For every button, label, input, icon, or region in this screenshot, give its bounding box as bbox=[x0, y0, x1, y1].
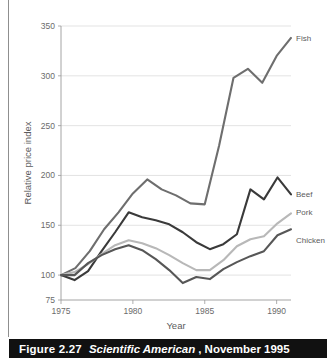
y-tick-label: 150 bbox=[41, 220, 55, 230]
x-tick-label: 1990 bbox=[267, 306, 286, 316]
y-axis-ticks: 75100150200250300350 bbox=[41, 21, 61, 305]
y-tick-label: 200 bbox=[41, 170, 55, 180]
y-tick-label: 100 bbox=[41, 270, 55, 280]
series-label-chicken: Chicken bbox=[296, 236, 325, 245]
series-line-beef bbox=[61, 177, 291, 280]
data-series-group bbox=[61, 38, 291, 283]
caption-date: , November 1995 bbox=[198, 343, 289, 355]
series-label-beef: Beef bbox=[296, 190, 313, 199]
x-tick-label: 1985 bbox=[195, 306, 214, 316]
chart-area: 75100150200250300350 1975198019851990 Fi… bbox=[9, 7, 327, 337]
y-tick-label: 350 bbox=[41, 21, 55, 31]
caption-figure-number: Figure 2.27 bbox=[19, 343, 82, 355]
series-label-pork: Pork bbox=[296, 208, 313, 217]
figure-caption-bar: Figure 2.27 Scientific American , Novemb… bbox=[9, 339, 327, 358]
y-axis-title: Relative price index bbox=[22, 121, 33, 204]
line-chart: 75100150200250300350 1975198019851990 Fi… bbox=[9, 7, 327, 337]
x-axis-title: Year bbox=[166, 320, 185, 331]
x-axis-ticks: 1975198019851990 bbox=[52, 300, 287, 316]
y-tick-label: 75 bbox=[46, 295, 56, 305]
series-label-fish: Fish bbox=[296, 34, 311, 43]
x-tick-label: 1980 bbox=[123, 306, 142, 316]
x-tick-label: 1975 bbox=[52, 306, 71, 316]
y-tick-label: 300 bbox=[41, 71, 55, 81]
series-labels-group: FishBeefPorkChicken bbox=[296, 34, 325, 245]
caption-source-title: Scientific American bbox=[89, 343, 195, 355]
y-tick-label: 250 bbox=[41, 121, 55, 131]
series-line-fish bbox=[61, 38, 291, 275]
figure-container: 75100150200250300350 1975198019851990 Fi… bbox=[0, 0, 335, 362]
top-text-sliver bbox=[16, 0, 326, 7]
